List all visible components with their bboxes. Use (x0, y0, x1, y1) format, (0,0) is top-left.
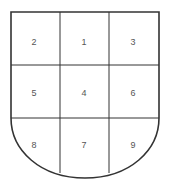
cell-label-9: 9 (123, 140, 143, 150)
cell-label-2: 2 (24, 37, 44, 47)
cell-label-1: 1 (74, 37, 94, 47)
cell-label-4: 4 (74, 88, 94, 98)
cell-label-3: 3 (123, 37, 143, 47)
cell-label-6: 6 (123, 88, 143, 98)
cell-label-8: 8 (24, 140, 44, 150)
cell-label-7: 7 (74, 140, 94, 150)
cell-label-5: 5 (24, 88, 44, 98)
